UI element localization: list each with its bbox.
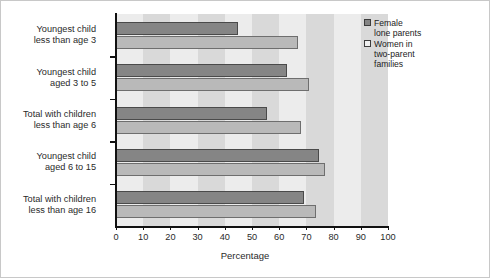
category-label: Youngest child less than age 3 — [0, 24, 96, 46]
bar — [116, 121, 301, 134]
x-tick-label: 0 — [113, 232, 118, 242]
plot-area — [116, 14, 388, 226]
y-axis-tick — [110, 99, 115, 101]
x-tick-label: 50 — [247, 232, 257, 242]
x-tick-label: 30 — [192, 232, 202, 242]
category-label: Youngest child aged 3 to 5 — [0, 67, 96, 89]
legend-item-women-two-parent: Women in two-parent families — [364, 39, 421, 69]
x-tick-label: 60 — [274, 232, 284, 242]
x-tick-label: 80 — [328, 232, 338, 242]
x-tick-mark — [306, 226, 307, 230]
x-tick-label: 90 — [356, 232, 366, 242]
bar — [116, 205, 316, 218]
x-tick-label: 10 — [138, 232, 148, 242]
y-axis-tick — [110, 56, 115, 58]
bar — [116, 64, 287, 77]
x-tick-mark — [252, 226, 253, 230]
category-label: Youngest child aged 6 to 15 — [0, 151, 96, 173]
x-tick-mark — [198, 226, 199, 230]
x-tick-label: 70 — [301, 232, 311, 242]
legend-label-female-lone-parents: Female lone parents — [374, 18, 421, 38]
legend-swatch-icon-dark — [364, 19, 371, 26]
x-tick-mark — [388, 226, 389, 230]
x-tick-mark — [116, 226, 117, 230]
bar — [116, 36, 298, 49]
x-tick-mark — [170, 226, 171, 230]
y-axis-line — [115, 13, 117, 227]
x-tick-label: 40 — [220, 232, 230, 242]
bar — [116, 163, 325, 176]
y-axis-tick — [110, 141, 115, 143]
legend-item-female-lone-parents: Female lone parents — [364, 18, 421, 38]
category-label: Total with children less than age 6 — [0, 109, 96, 131]
x-tick-mark — [225, 226, 226, 230]
bar — [116, 191, 304, 204]
bar — [116, 78, 309, 91]
bar — [116, 22, 238, 35]
background-band — [334, 14, 361, 226]
x-axis-title: Percentage — [0, 250, 490, 261]
bar — [116, 149, 319, 162]
category-label: Total with children less than age 16 — [0, 194, 96, 216]
x-tick-label: 100 — [380, 232, 395, 242]
x-tick-mark — [361, 226, 362, 230]
bar-chart: Youngest child less than age 3Youngest c… — [0, 0, 490, 278]
x-tick-mark — [143, 226, 144, 230]
x-tick-mark — [279, 226, 280, 230]
x-tick-label: 20 — [165, 232, 175, 242]
chart-legend: Female lone parents Women in two-parent … — [364, 18, 421, 70]
y-axis-tick — [110, 184, 115, 186]
legend-label-women-two-parent: Women in two-parent families — [374, 39, 415, 69]
legend-swatch-icon-light — [364, 40, 371, 47]
bar — [116, 107, 267, 120]
x-tick-mark — [334, 226, 335, 230]
